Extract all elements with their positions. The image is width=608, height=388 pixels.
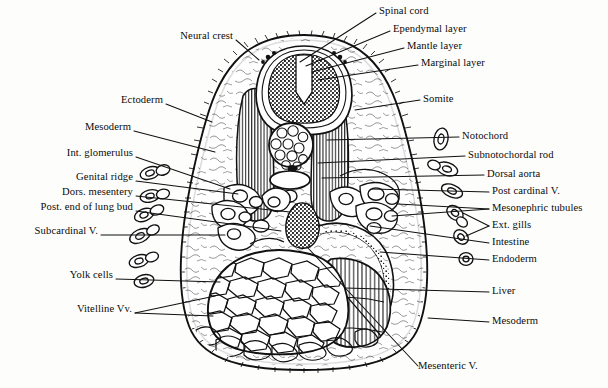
label-subcardinal-v: Subcardinal V. <box>16 226 98 237</box>
label-dors-mesentery: Dors. mesentery <box>44 187 133 198</box>
label-ectoderm: Ectoderm <box>93 95 163 106</box>
label-mesonephric-tubules: Mesonephric tubules <box>492 203 582 214</box>
label-mesenteric-v: Mesenteric V. <box>418 361 478 372</box>
label-liver: Liver <box>492 286 515 297</box>
label-ext-gills: Ext. gills <box>492 220 531 231</box>
label-genital-ridge: Genital ridge <box>62 172 133 183</box>
figure-canvas: Neural crest Ectoderm Mesoderm Int. glom… <box>0 0 608 388</box>
label-marginal-layer: Marginal layer <box>421 58 485 69</box>
label-endoderm: Endoderm <box>492 254 537 265</box>
label-vitelline-vv: Vitelline Vv. <box>59 304 132 315</box>
label-yolk-cells: Yolk cells <box>52 270 113 281</box>
label-post-end-lung-bud: Post. end of lung bud <box>9 202 133 213</box>
subnotochordal-rod-body <box>270 171 310 189</box>
label-dorsal-aorta: Dorsal aorta <box>487 169 540 180</box>
label-subnotochordal-rod: Subnotochordal rod <box>468 150 554 161</box>
label-post-cardinal-v: Post cardinal V. <box>492 186 560 197</box>
label-notochord: Notochord <box>462 131 508 142</box>
label-int-glomerulus: Int. glomerulus <box>50 148 133 159</box>
label-spinal-cord: Spinal cord <box>379 6 429 17</box>
label-ependymal-layer: Ependymal layer <box>393 24 467 35</box>
label-mantle-layer: Mantle layer <box>407 41 462 52</box>
label-mesoderm-left: Mesoderm <box>59 122 131 133</box>
label-mesoderm-right: Mesoderm <box>492 316 538 327</box>
ext-gill-left <box>127 163 171 289</box>
label-somite: Somite <box>423 94 454 105</box>
label-intestine: Intestine <box>492 237 529 248</box>
ext-gill-right <box>426 127 473 265</box>
label-neural-crest: Neural crest <box>163 31 233 42</box>
